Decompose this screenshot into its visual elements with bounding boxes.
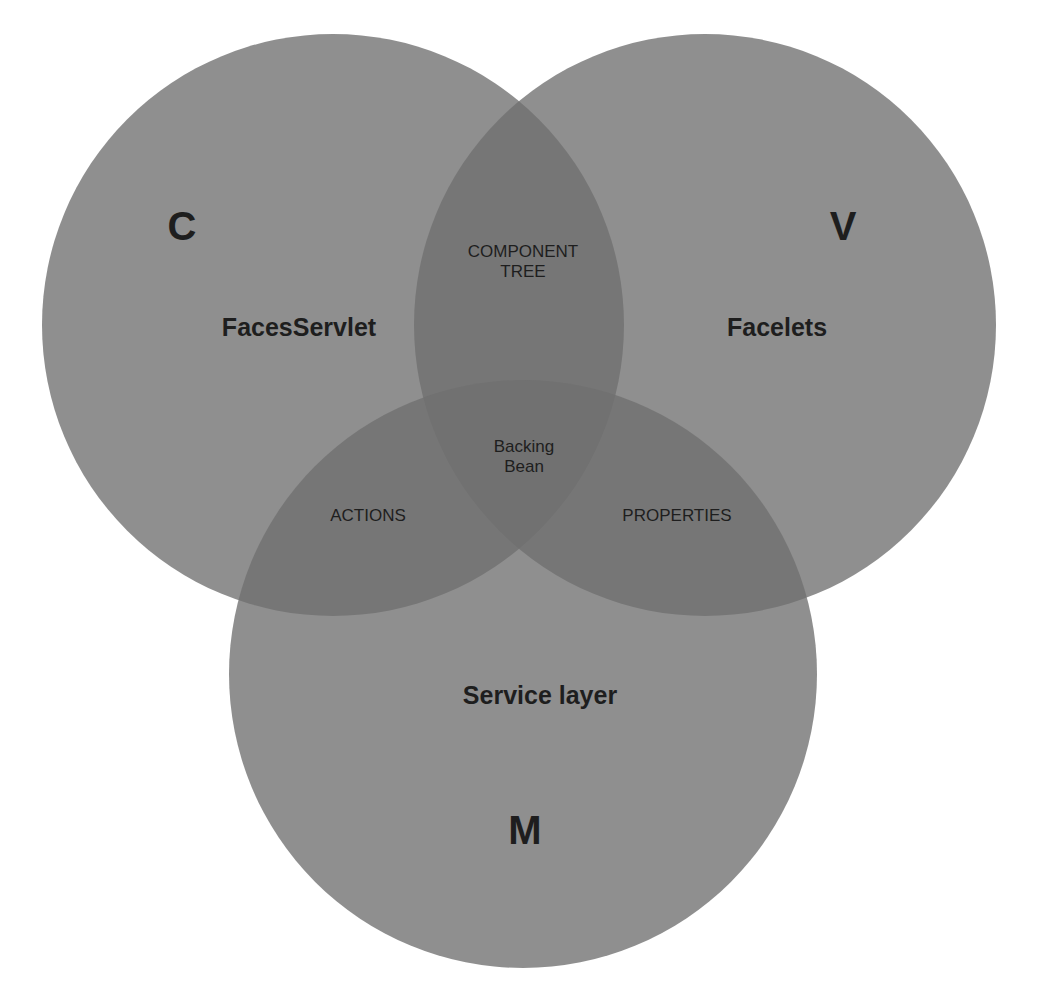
overlap-all-line1: Backing [494,437,554,457]
overlap-all-line2: Bean [494,457,554,477]
controller-letter: C [168,202,197,250]
controller-label: FacesServlet [222,312,376,342]
overlap-controller-view-line1: COMPONENT [468,242,579,262]
overlap-view-model: PROPERTIES [622,506,731,526]
overlap-controller-view-line2: TREE [468,262,579,282]
view-letter: V [830,202,857,250]
overlap-controller-view: COMPONENT TREE [468,242,579,283]
view-label: Facelets [727,312,827,342]
model-label: Service layer [463,680,617,710]
overlap-controller-model: ACTIONS [330,506,406,526]
model-letter: M [508,806,541,854]
overlap-all: Backing Bean [494,437,554,478]
